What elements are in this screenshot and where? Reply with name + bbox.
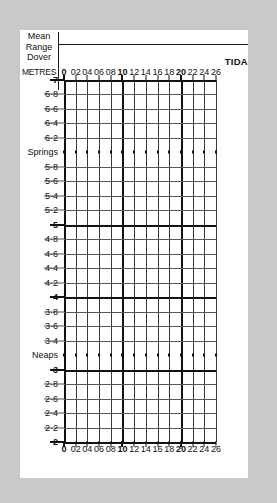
grid-vline-10 <box>122 80 124 442</box>
grid-hline-6.6 <box>64 109 216 110</box>
y-axis-label-3: 3 <box>20 365 69 375</box>
grid-hline-5.8 <box>64 167 216 168</box>
corner-label-line-1: Mean <box>20 31 58 42</box>
grid-hline-2.4 <box>64 413 216 414</box>
y-axis-label-2: 2 <box>20 437 69 447</box>
y-axis-label-64: 6·4 <box>20 118 75 128</box>
y-axis-label-28: 2·8 <box>20 379 75 389</box>
y-axis-label-66: 6·6 <box>20 104 75 114</box>
grid-hline-6.2 <box>64 138 216 139</box>
grid-hline-4.8 <box>64 239 216 240</box>
x-axis-tick-10 <box>121 75 123 81</box>
x-axis-tick-22 <box>192 75 193 81</box>
grid-hline-6.4 <box>64 123 216 124</box>
y-axis-label-7: 7 <box>20 75 69 85</box>
y-axis-label-54: 5·4 <box>20 191 75 201</box>
y-axis-label-56: 5·6 <box>20 176 75 186</box>
y-axis-label-58: 5·8 <box>20 162 75 172</box>
x-axis-tick-04 <box>87 75 88 81</box>
chart-title: TIDA <box>225 56 248 67</box>
grid-dot <box>110 151 112 154</box>
grid-hline-5.6 <box>64 181 216 182</box>
grid-vline-02 <box>76 80 77 442</box>
y-axis-label-38: 3·8 <box>20 307 75 317</box>
x-axis-tick-12 <box>134 75 135 81</box>
grid-dot <box>121 151 123 154</box>
x-axis-tick-20 <box>180 441 182 447</box>
grid-dot <box>215 354 217 357</box>
grid-dot <box>215 151 217 154</box>
grid-dotted-row-springs <box>64 151 216 154</box>
grid-hline-2.8 <box>64 384 216 385</box>
x-axis-tick-16 <box>157 75 158 81</box>
grid-dot <box>157 354 159 357</box>
grid-hline-3.4 <box>64 341 216 342</box>
y-axis-label-34: 3·4 <box>20 336 75 346</box>
grid-dot <box>168 151 170 154</box>
grid-hline-4 <box>64 297 216 299</box>
header-horizontal-rule <box>58 44 248 45</box>
tidal-prediction-card: Mean Range Dover TIDA METRES 00204060810… <box>20 30 248 478</box>
corner-label-line-2: Range <box>20 42 58 53</box>
grid-dot <box>203 151 205 154</box>
y-axis-label-neaps: Neaps <box>20 350 60 360</box>
y-axis-label-44: 4·4 <box>20 263 75 273</box>
y-axis-label-5: 5 <box>20 220 69 230</box>
grid-dot <box>63 354 65 357</box>
x-axis-tick-04 <box>87 441 88 447</box>
x-axis-tick-16 <box>157 441 158 447</box>
x-axis-tick-08 <box>110 441 111 447</box>
x-axis-tick-26 <box>216 441 217 447</box>
grid-hline-5 <box>64 225 216 227</box>
grid-dot <box>98 354 100 357</box>
x-axis-tick-02 <box>75 441 76 447</box>
grid-dot <box>180 354 182 357</box>
x-axis-tick-06 <box>99 441 100 447</box>
y-axis-label-62: 6·2 <box>20 133 75 143</box>
grid-dot <box>63 151 65 154</box>
x-axis-tick-14 <box>145 75 146 81</box>
grid-hline-2.2 <box>64 428 216 429</box>
x-axis-tick-24 <box>204 441 205 447</box>
corner-label-line-3: Dover <box>20 52 58 63</box>
grid-vline-04 <box>87 80 88 442</box>
grid-dotted-row-neaps <box>64 354 216 357</box>
grid-hline-6.8 <box>64 94 216 95</box>
y-axis-label-42: 4·2 <box>20 278 75 288</box>
x-axis-tick-20 <box>180 75 182 81</box>
y-axis-label-68: 6·8 <box>20 89 75 99</box>
grid-dot <box>168 354 170 357</box>
grid-dot <box>157 151 159 154</box>
grid-dot <box>192 354 194 357</box>
grid-hline-4.6 <box>64 254 216 255</box>
grid-vline-18 <box>169 80 170 442</box>
y-axis-label-26: 2·6 <box>20 394 75 404</box>
grid-vline-06 <box>99 80 100 442</box>
grid-dot <box>133 354 135 357</box>
x-axis-tick-18 <box>169 75 170 81</box>
grid-dot <box>145 151 147 154</box>
grid-dot <box>98 151 100 154</box>
grid-vline-14 <box>146 80 147 442</box>
chart-plot-area <box>64 80 216 442</box>
grid-dot <box>145 354 147 357</box>
x-axis-tick-26 <box>216 75 217 81</box>
grid-dot <box>133 151 135 154</box>
grid-hline-4.4 <box>64 268 216 269</box>
grid-dot <box>203 354 205 357</box>
grid-dot <box>192 151 194 154</box>
y-axis-label-22: 2·2 <box>20 423 75 433</box>
grid-dot <box>75 151 77 154</box>
y-axis-label-46: 4·6 <box>20 249 75 259</box>
grid-dot <box>110 354 112 357</box>
grid-vline-24 <box>204 80 205 442</box>
x-axis-tick-06 <box>99 75 100 81</box>
grid-hline-2.6 <box>64 399 216 400</box>
grid-vline-12 <box>134 80 135 442</box>
grid-vline-16 <box>158 80 159 442</box>
grid-vline-08 <box>111 80 112 442</box>
x-axis-tick-12 <box>134 441 135 447</box>
x-axis-tick-14 <box>145 441 146 447</box>
x-axis-tick-08 <box>110 75 111 81</box>
grid-hline-4.2 <box>64 283 216 284</box>
